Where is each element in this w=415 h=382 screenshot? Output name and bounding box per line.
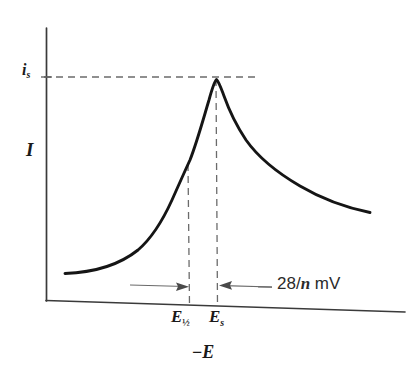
chart-canvas xyxy=(0,0,415,382)
potential-symbol: E xyxy=(202,342,214,362)
x-axis-line xyxy=(46,301,405,313)
peak-potential-label: Es xyxy=(209,308,224,328)
peak-potential-dashed-line xyxy=(216,79,218,306)
peak-current-label: is xyxy=(22,62,30,80)
voltammogram-figure: is I E½ Es −E 28/n mV xyxy=(0,0,415,382)
peak-current-subscript: s xyxy=(26,69,30,80)
half-wave-subscript: ½ xyxy=(182,317,190,328)
peak-width-left-arrow xyxy=(130,282,189,291)
half-wave-symbol: E xyxy=(171,307,182,326)
peak-potential-subscript: s xyxy=(220,317,224,328)
minus-sign: − xyxy=(192,342,202,362)
potential-axis-label: −E xyxy=(192,343,214,361)
peak-potential-symbol: E xyxy=(209,307,220,326)
peak-width-right-arrow xyxy=(219,281,272,290)
voltammetric-peak-curve xyxy=(65,80,370,274)
peak-width-n: n xyxy=(301,274,310,293)
current-axis-label: I xyxy=(26,140,33,159)
half-wave-potential-label: E½ xyxy=(171,308,190,328)
peak-width-value: 28/ xyxy=(277,274,301,293)
half-wave-dashed-line xyxy=(188,164,190,305)
peak-width-annotation: 28/n mV xyxy=(277,275,340,292)
peak-width-unit: mV xyxy=(310,274,340,293)
